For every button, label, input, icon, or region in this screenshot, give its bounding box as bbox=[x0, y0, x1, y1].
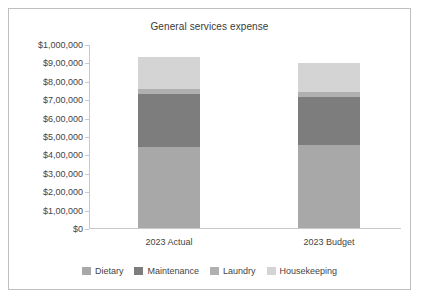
legend-item-dietary[interactable]: Dietary bbox=[82, 266, 124, 276]
stacked-bar[interactable]: 2023 Actual bbox=[138, 57, 200, 228]
legend-swatch-icon bbox=[82, 267, 91, 275]
y-axis-tick-mark bbox=[85, 137, 89, 138]
y-axis-tick-label: $2,00,000 bbox=[13, 187, 89, 197]
bar-segment-housekeeping[interactable] bbox=[138, 57, 200, 89]
legend-swatch-icon bbox=[134, 267, 143, 275]
y-axis-tick-mark bbox=[85, 82, 89, 83]
y-axis-tick-label: $7,00,000 bbox=[13, 95, 89, 105]
bar-segment-maintenance[interactable] bbox=[298, 97, 360, 145]
legend-label: Laundry bbox=[223, 266, 256, 276]
legend-item-maintenance[interactable]: Maintenance bbox=[134, 266, 199, 276]
chart-frame: General services expense $1,000,000$9,00… bbox=[8, 8, 411, 290]
y-axis-tick-mark bbox=[85, 155, 89, 156]
y-axis-tick-label: $1,000,000 bbox=[13, 40, 89, 50]
chart-legend: DietaryMaintenanceLaundryHousekeeping bbox=[9, 266, 410, 276]
y-axis-tick-label: $6,00,000 bbox=[13, 114, 89, 124]
chart-title: General services expense bbox=[9, 21, 410, 32]
legend-label: Dietary bbox=[95, 266, 124, 276]
chart-screenshot: General services expense $1,000,000$9,00… bbox=[0, 0, 421, 300]
y-axis-tick-label: $5,00,000 bbox=[13, 132, 89, 142]
bar-segment-housekeeping[interactable] bbox=[298, 63, 360, 92]
y-axis-tick-label: $9,00,000 bbox=[13, 58, 89, 68]
y-axis-tick-label: $0 bbox=[13, 224, 89, 234]
y-axis-tick-mark bbox=[85, 119, 89, 120]
y-axis-tick-mark bbox=[85, 45, 89, 46]
y-axis-tick-mark bbox=[85, 174, 89, 175]
y-axis-tick-label: $8,00,000 bbox=[13, 77, 89, 87]
legend-label: Housekeeping bbox=[280, 266, 338, 276]
y-axis-tick-mark bbox=[85, 229, 89, 230]
bar-segment-maintenance[interactable] bbox=[138, 94, 200, 147]
bar-segment-dietary[interactable] bbox=[138, 147, 200, 228]
legend-item-laundry[interactable]: Laundry bbox=[210, 266, 256, 276]
stacked-bar[interactable]: 2023 Budget bbox=[298, 63, 360, 228]
y-axis-line bbox=[89, 45, 90, 229]
y-axis-tick-mark bbox=[85, 63, 89, 64]
x-axis-line bbox=[89, 228, 401, 229]
bar-segment-dietary[interactable] bbox=[298, 145, 360, 228]
y-axis-tick-label: $3,00,000 bbox=[13, 169, 89, 179]
legend-label: Maintenance bbox=[147, 266, 199, 276]
x-axis-category-label: 2023 Actual bbox=[109, 237, 229, 247]
y-axis-tick-mark bbox=[85, 211, 89, 212]
legend-swatch-icon bbox=[267, 267, 276, 275]
y-axis-tick-label: $1,00,000 bbox=[13, 206, 89, 216]
y-axis-tick-mark bbox=[85, 100, 89, 101]
legend-item-housekeeping[interactable]: Housekeeping bbox=[267, 266, 338, 276]
y-axis-tick-mark bbox=[85, 192, 89, 193]
legend-swatch-icon bbox=[210, 267, 219, 275]
y-axis-tick-label: $4,00,000 bbox=[13, 150, 89, 160]
x-axis-category-label: 2023 Budget bbox=[269, 237, 389, 247]
plot-area: $1,000,000$9,00,000$8,00,000$7,00,000$6,… bbox=[89, 45, 409, 229]
